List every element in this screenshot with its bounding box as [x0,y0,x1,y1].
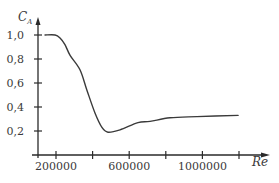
y-axis-label: CA [18,10,32,26]
y-axis-arrow-icon [36,17,41,25]
axes [32,17,270,158]
y-tick-label: 0,6 [7,77,25,90]
y-axis-label-sub: A [26,18,32,26]
x-tick-label: 200000 [35,160,77,173]
figure-caption-clipped [55,178,279,183]
y-tick-label: 0,8 [7,53,25,66]
y-axis-label-main: C [18,10,27,24]
chart: 2000006000001000000 0,20,40,60,81,0 CA R… [0,0,279,183]
y-tick-labels: 0,20,40,60,81,0 [7,29,25,138]
x-axis-label: Re [251,155,268,169]
y-tick-label: 1,0 [7,29,25,42]
y-tick-label: 0,2 [7,125,25,138]
x-tick-label: 600000 [108,160,150,173]
x-tick-label: 1000000 [178,160,227,173]
data-line [45,35,238,132]
x-tick-labels: 2000006000001000000 [35,160,227,173]
y-tick-label: 0,4 [7,101,25,114]
